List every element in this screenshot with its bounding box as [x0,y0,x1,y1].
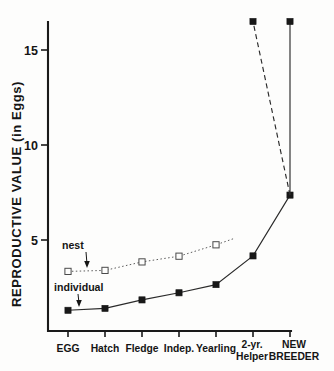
xtickvalue-indep: Indep. [164,343,194,354]
individual-marker-3f [139,297,145,303]
canvas-background [0,0,334,371]
individual-marker-2f [102,305,108,311]
individual-marker-6f [250,253,256,259]
individual-marker-1f [65,307,71,313]
individual-marker-4f [176,290,182,296]
individual-marker-5f [213,282,219,288]
xtickvalue-breeder: BREEDER [269,351,320,362]
axis-label-y: REPRODUCTIVE VALUE (in Eggs) [9,81,24,307]
nest-marker-1f [65,268,71,274]
terminal-dashed-marker [250,18,256,24]
nest-marker-4f [176,253,182,259]
ytickvalue-5: 5 [31,234,38,248]
nest-label-text: nest [62,239,84,251]
xtickvalue-egg: EGG [57,343,80,354]
nest-marker-5f [213,242,219,248]
xtickvalue-helper: Helper [236,351,268,362]
xtickvalue-new: NEW [282,339,306,350]
nest-marker-2f [102,267,108,273]
xtickvalue-hatch: Hatch [91,343,120,354]
chart-canvas-final: REPRODUCTIVE VALUE (in Eggs) 5 10 15 EGG… [0,0,334,371]
reproductive-value-chart: REPRODUCTIVE VALUE (in Eggs) 5 10 15 EGG [0,0,334,371]
ytickvalue-10: 10 [24,139,38,153]
xtickvalue-yearling: Yearling [196,343,236,354]
ytickvalue-15: 15 [24,44,38,58]
xtickvalue-fledge: Fledge [125,343,158,354]
individual-label-text: individual [54,281,103,293]
xtickvalue-2yr: 2-yr. [241,339,262,350]
terminal-solid-marker [287,18,293,24]
nest-marker-3f [139,259,145,265]
